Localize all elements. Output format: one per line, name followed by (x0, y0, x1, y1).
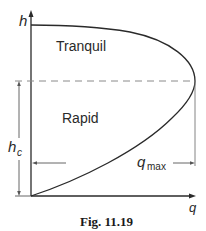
tranquil-region-label: Tranquil (56, 38, 106, 54)
qmax-dimension (32, 81, 195, 166)
h-axis (29, 10, 34, 196)
svg-text:max: max (147, 161, 166, 172)
h-axis-label: h (19, 12, 27, 29)
q-axis (31, 194, 196, 199)
svg-text:q: q (137, 153, 146, 170)
hc-label: h c (6, 138, 30, 160)
figure-caption: Fig. 11.19 (80, 214, 134, 229)
qmax-label: q max (137, 153, 166, 172)
svg-text:c: c (17, 147, 22, 158)
specific-energy-diagram: h q Tranquil Rapid h c q max Fig. 11.19 (0, 0, 206, 231)
rapid-region-label: Rapid (62, 110, 99, 126)
svg-text:h: h (8, 138, 16, 155)
q-axis-label: q (189, 200, 197, 215)
